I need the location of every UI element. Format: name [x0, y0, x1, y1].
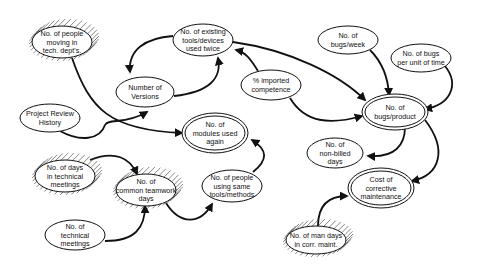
node-label-line: competence	[251, 85, 290, 94]
node-corrective-cost: Cost ofcorrectivemaintenance	[348, 168, 414, 208]
node-label-line: bugs/week	[331, 40, 366, 49]
influence-diagram: No. of peoplemoving intech. dept's.No. o…	[0, 0, 478, 266]
node-label-line: meetings	[60, 239, 90, 248]
edge-imported-competence-to-bugs-product	[290, 98, 362, 121]
node-label-line: in corr. maint.	[294, 240, 337, 249]
node-label-line: tech. dept's.	[43, 46, 82, 55]
edge-people-same-tools-to-modules-reused	[252, 140, 264, 172]
edge-bugs-product-to-corrective-cost	[412, 120, 438, 181]
node-non-billed: No. ofnon-billeddays	[307, 138, 363, 168]
edge-bugs-product-to-non-billed	[368, 127, 405, 156]
edge-imported-competence-to-existing-tools	[236, 50, 258, 71]
edge-bugs-unit-time-to-bugs-product	[425, 66, 452, 109]
node-label-line: per unit of time	[397, 58, 445, 67]
node-label-line: History	[39, 118, 62, 127]
node-people-moving: No. of peoplemoving intech. dept's.	[29, 19, 99, 61]
node-versions: Number ofVersions	[116, 77, 174, 107]
node-people-same-tools: No. of peopleusing sametools/methods	[202, 170, 262, 202]
node-existing-tools: No. of existingtools/devicesused twice	[173, 24, 233, 56]
node-label-line: bugs/product	[374, 112, 416, 121]
node-label-line: used twice	[186, 44, 220, 53]
node-label-line: tools/methods	[210, 190, 255, 199]
edge-versions-to-existing-tools	[174, 58, 219, 96]
edge-existing-tools-to-versions	[130, 36, 173, 72]
node-label-line: days	[138, 194, 154, 203]
edge-bugs-week-to-bugs-product	[370, 50, 389, 95]
edges-layer	[60, 36, 452, 241]
node-label-line: maintenance	[360, 192, 401, 201]
node-label-line: meetings	[50, 180, 80, 189]
node-bugs-unit-time: No. of bugsper unit of time	[391, 44, 451, 72]
edge-tech-meetings-to-common-teamwork	[105, 206, 145, 241]
node-modules-reused: No. ofmodules usedagain	[182, 113, 248, 153]
node-imported-competence: % importedcompetence	[241, 70, 301, 100]
node-label-line: again	[206, 137, 224, 146]
node-tech-meetings: No. oftechnicalmeetings	[45, 220, 105, 250]
node-label-line: days	[327, 157, 343, 166]
node-common-teamwork: No. ofcommon teamworkdays	[113, 167, 183, 209]
edge-common-teamwork-to-people-same-tools	[166, 203, 212, 220]
node-project-review: Project ReviewHistory	[20, 104, 80, 132]
node-bugs-week: No. ofbugs/week	[318, 26, 378, 54]
node-label-line: Versions	[131, 92, 159, 101]
node-bugs-product: No. ofbugs/product	[362, 94, 428, 130]
